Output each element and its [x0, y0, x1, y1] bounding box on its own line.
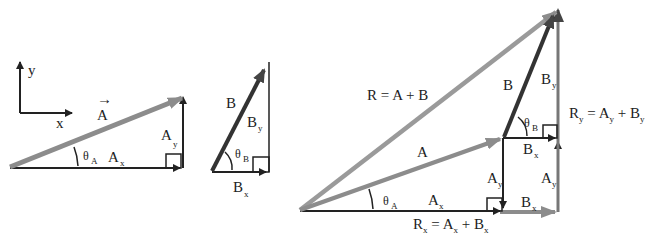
ay-left-sub: y: [498, 179, 503, 189]
rx-equation: Rx = Ax + Bx: [413, 216, 489, 235]
by-label: B: [247, 114, 257, 130]
x-axis-label: x: [56, 115, 64, 131]
right-angle-marker: [166, 154, 181, 168]
bx-label: B: [233, 179, 243, 195]
vector-r-arrow: [300, 12, 556, 210]
right-angle-marker: [253, 157, 269, 172]
panel-vector-b: B B y θ B B x: [212, 62, 269, 199]
theta-b-arc: [225, 152, 232, 170]
vector-b-label: B: [226, 95, 236, 111]
vector-a-label: A: [97, 107, 108, 123]
theta-b-sub: B: [532, 123, 538, 133]
bx-bottom-sub: x: [532, 203, 537, 213]
theta-a-sub: A: [91, 156, 98, 166]
ay-sub: y: [173, 139, 178, 149]
theta-a-label: θ: [83, 149, 89, 163]
theta-b-label: θ: [235, 147, 241, 161]
vector-a-label: A: [417, 144, 428, 160]
right-angle-marker: [543, 125, 557, 138]
theta-b-sub: B: [243, 154, 249, 164]
ay-label: A: [161, 127, 172, 143]
ay-right-sub: y: [552, 179, 557, 189]
ax-label: A: [108, 149, 119, 165]
ax-label: A: [428, 192, 439, 208]
right-angle-marker: [487, 198, 502, 211]
by-label: B: [541, 71, 551, 87]
by-sub: y: [258, 123, 263, 133]
ay-right-label: A: [541, 170, 552, 186]
bx-top-label: B: [523, 141, 533, 157]
ax-sub: x: [439, 201, 444, 211]
bx-top-sub: x: [534, 150, 539, 160]
panel-resultant: R = A + B A B B y θ B B x A y A y θ A A …: [300, 10, 645, 235]
theta-a-label: θ: [383, 194, 389, 208]
theta-a-sub: A: [391, 201, 398, 211]
axes-reference: y x: [20, 62, 72, 131]
vector-addition-diagram: y x A → θ A A x A y B B y θ B B x: [0, 0, 645, 243]
vector-arrow-overbar: →: [97, 91, 112, 107]
vector-a-arrow: [300, 139, 500, 210]
bx-bottom-label: B: [521, 194, 531, 210]
bx-sub: x: [244, 189, 249, 199]
ay-left-label: A: [487, 170, 498, 186]
y-axis-label: y: [28, 62, 36, 78]
theta-a-arc: [74, 147, 78, 166]
ax-sub: x: [120, 158, 125, 168]
theta-b-label: θ: [524, 116, 530, 130]
ry-equation: Ry = Ay + By: [569, 105, 645, 124]
by-sub: y: [552, 80, 557, 90]
theta-a-arc: [369, 189, 373, 209]
panel-vector-a: A → θ A A x A y: [10, 91, 183, 168]
resultant-equation: R = A + B: [367, 87, 428, 103]
vector-b-label: B: [503, 77, 513, 93]
